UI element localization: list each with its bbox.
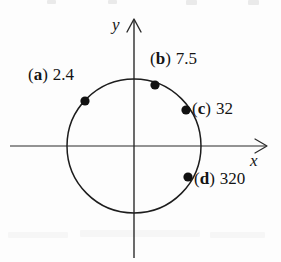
point-dot-a bbox=[80, 96, 89, 105]
unit-circle-figure: y x (a)2.4 (b)7.5 (c)32 (d)320 bbox=[0, 0, 281, 262]
point-label-a: (a)2.4 bbox=[28, 66, 74, 83]
point-tag-d: (d) bbox=[194, 169, 215, 188]
point-dot-d bbox=[183, 172, 192, 181]
point-value-c: 32 bbox=[216, 99, 233, 118]
point-label-d: (d)320 bbox=[194, 170, 245, 187]
y-axis-label: y bbox=[112, 16, 120, 33]
point-value-a: 2.4 bbox=[53, 65, 74, 84]
x-axis-label: x bbox=[250, 152, 258, 169]
point-dot-c bbox=[181, 105, 190, 114]
point-label-b: (b)7.5 bbox=[150, 50, 197, 67]
point-tag-c: (c) bbox=[192, 99, 211, 118]
point-label-c: (c)32 bbox=[192, 100, 233, 117]
point-dot-b bbox=[150, 80, 159, 89]
diagram-canvas bbox=[0, 0, 281, 262]
point-value-b: 7.5 bbox=[176, 49, 197, 68]
point-tag-a: (a) bbox=[28, 65, 48, 84]
point-value-d: 320 bbox=[220, 169, 246, 188]
point-tag-b: (b) bbox=[150, 49, 171, 68]
